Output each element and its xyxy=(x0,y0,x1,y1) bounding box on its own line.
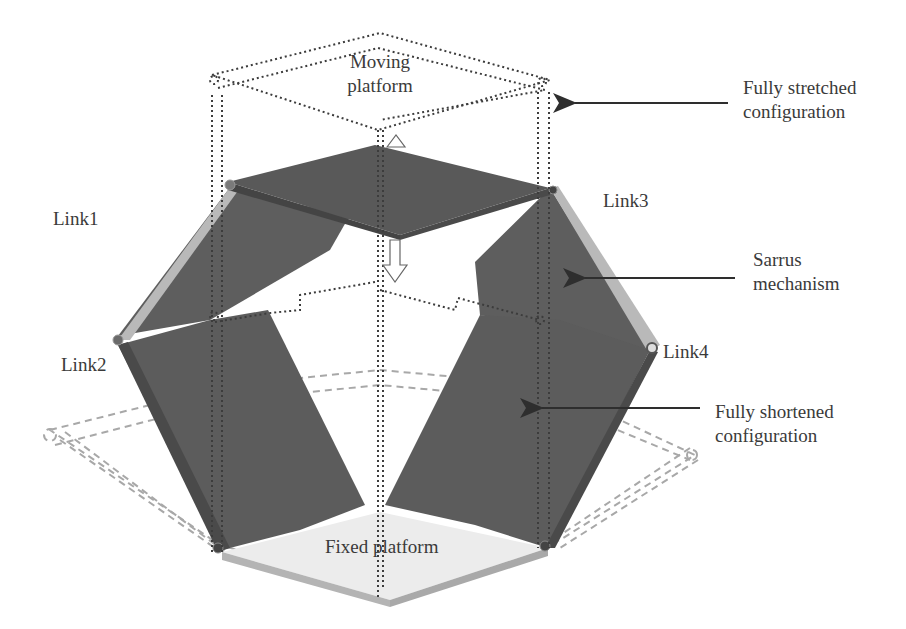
sarrus-mechanism-label: Sarrus mechanism xyxy=(753,248,840,296)
link4-label: Link4 xyxy=(663,340,708,364)
fully-shortened-line2: configuration xyxy=(715,424,834,448)
moving-platform-line1: Moving xyxy=(330,50,430,74)
sarrus-line1: Sarrus xyxy=(753,248,840,272)
up-arrow-icon xyxy=(387,135,405,147)
fixed-platform-label: Fixed platform xyxy=(325,535,438,559)
link2-label: Link2 xyxy=(61,353,106,377)
fully-stretched-line1: Fully stretched xyxy=(743,76,856,100)
fully-stretched-line2: configuration xyxy=(743,100,856,124)
moving-platform-line2: platform xyxy=(330,74,430,98)
moving-platform-label: Moving platform xyxy=(330,50,430,98)
fully-stretched-label: Fully stretched configuration xyxy=(743,76,856,124)
sarrus-line2: mechanism xyxy=(753,272,840,296)
link1-label: Link1 xyxy=(53,207,98,231)
down-arrow-icon xyxy=(383,240,407,282)
fully-shortened-label: Fully shortened configuration xyxy=(715,400,834,448)
link3-label: Link3 xyxy=(603,189,648,213)
fully-shortened-line1: Fully shortened xyxy=(715,400,834,424)
